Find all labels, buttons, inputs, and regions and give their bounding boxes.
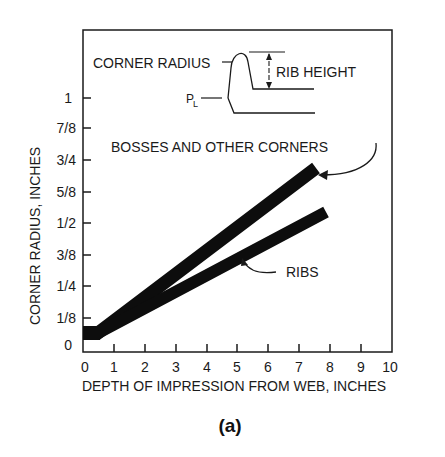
ribs-label: RIBS — [286, 264, 319, 280]
x-tick-label: 5 — [233, 359, 241, 375]
x-axis-title: DEPTH OF IMPRESSION FROM WEB, INCHES — [82, 378, 386, 394]
y-tick-label: 3/4 — [57, 152, 77, 168]
corner-radius-label: CORNER RADIUS — [93, 55, 210, 71]
y-tick-label: 1/4 — [57, 278, 77, 294]
x-tick-label: 7 — [295, 359, 303, 375]
y-axis: 0 1/8 1/4 3/8 1/2 5/8 3/4 7/8 1 — [57, 90, 91, 353]
series-bosses — [83, 168, 316, 333]
ribs-arrow — [244, 262, 276, 273]
figure-caption: (a) — [218, 415, 241, 436]
x-tick-label: 8 — [326, 359, 334, 375]
chart-canvas: 0 1/8 1/4 3/8 1/2 5/8 3/4 7/8 1 CORNER R… — [0, 0, 445, 457]
x-tick-label: 2 — [141, 359, 149, 375]
x-tick-label: 10 — [382, 359, 398, 375]
x-tick-label: 0 — [81, 359, 89, 375]
y-tick-label: 1 — [64, 90, 72, 106]
x-tick-label: 3 — [172, 359, 180, 375]
x-axis: 0 1 2 3 4 5 6 7 8 9 10 — [81, 344, 398, 375]
x-tick-label: 6 — [264, 359, 272, 375]
bosses-arrow — [322, 143, 376, 175]
bosses-arrowhead — [318, 170, 328, 180]
y-tick-label: 1/8 — [57, 310, 77, 326]
y-tick-label: 5/8 — [57, 184, 77, 200]
y-tick-label: 1/2 — [57, 215, 77, 231]
y-tick-label: 7/8 — [57, 120, 77, 136]
x-tick-label: 4 — [203, 359, 211, 375]
rib-height-label: RIB HEIGHT — [276, 64, 357, 80]
base-segment — [83, 326, 100, 340]
x-tick-label: 1 — [110, 359, 118, 375]
parting-line-subscript: L — [193, 99, 198, 109]
y-axis-title: CORNER RADIUS, INCHES — [27, 147, 43, 325]
y-tick-label: 3/8 — [57, 247, 77, 263]
y-tick-label: 0 — [64, 337, 72, 353]
rib-diagram: CORNER RADIUS RIB HEIGHT P L — [93, 52, 357, 113]
bosses-label: BOSSES AND OTHER CORNERS — [111, 139, 328, 155]
x-tick-label: 9 — [357, 359, 365, 375]
